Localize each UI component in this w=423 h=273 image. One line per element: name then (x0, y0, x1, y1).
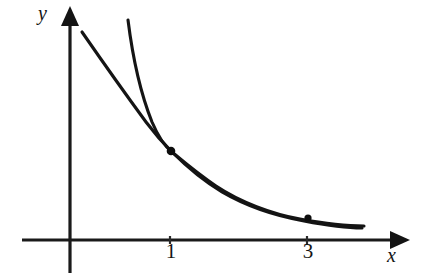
curve-shallow (82, 32, 362, 228)
curve-steep (128, 20, 364, 226)
x-tick-label-3: 3 (297, 241, 319, 262)
y-axis-arrowhead (61, 6, 79, 26)
graph-figure: y x 1 3 (0, 0, 423, 273)
y-axis-label: y (38, 3, 47, 23)
graph-canvas (0, 0, 423, 273)
x-tick-label-1: 1 (160, 241, 182, 262)
intersection-point-1 (167, 147, 176, 156)
x-axis-label: x (387, 245, 396, 265)
intersection-point-2 (304, 214, 311, 221)
